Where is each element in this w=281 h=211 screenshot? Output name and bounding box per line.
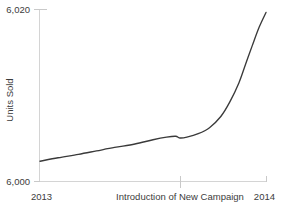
y-axis-tick-label-bottom: 6,000 xyxy=(6,176,30,187)
y-axis-tick-label-top: 6,020 xyxy=(6,4,30,15)
line-chart: 6,020 6,000 Units Sold 2013 Introduction… xyxy=(0,0,281,211)
x-axis-annotation-campaign: Introduction of New Campaign xyxy=(116,191,244,202)
x-axis-tick-label-right: 2014 xyxy=(254,191,275,202)
x-axis-tick-label-left: 2013 xyxy=(31,191,52,202)
chart-canvas: 6,020 6,000 Units Sold 2013 Introduction… xyxy=(0,0,281,211)
y-axis-title: Units Sold xyxy=(4,78,15,121)
data-series-units-sold xyxy=(40,12,266,161)
